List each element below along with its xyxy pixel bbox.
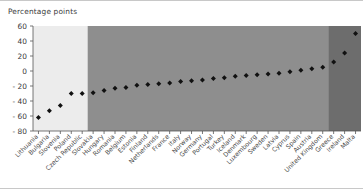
x-axis: LithuaniaBulgariaSloveniaPolandCzech Rep…	[14, 131, 361, 174]
y-tick-label: 20	[18, 52, 28, 61]
y-tick-label: - 80	[13, 127, 28, 136]
dark-band	[328, 26, 361, 131]
y-tick-label: - 40	[13, 97, 28, 106]
mid-band	[88, 26, 329, 131]
light-band	[33, 26, 88, 131]
background-bands	[33, 26, 361, 131]
y-tick-label: - 20	[13, 82, 28, 91]
chart-container: Percentage points - 80- 60- 40- 20020406…	[0, 0, 363, 189]
y-tick-label: 60	[18, 22, 28, 31]
y-tick-label: - 60	[13, 112, 28, 121]
y-axis: - 80- 60- 40- 200204060	[13, 22, 33, 136]
y-tick-label: 0	[22, 67, 27, 76]
y-tick-label: 40	[18, 37, 28, 46]
scatter-plot: - 80- 60- 40- 200204060 LithuaniaBulgari…	[0, 0, 363, 189]
